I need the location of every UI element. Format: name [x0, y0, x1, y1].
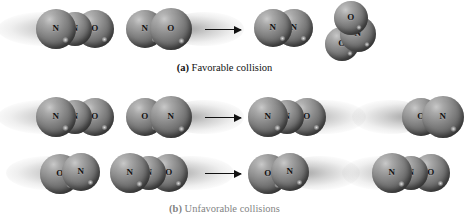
molecule-no2-product-row-a: O N O [318, 1, 382, 63]
caption-unfavorable: (b) Unfavorable collisions [0, 203, 449, 214]
atom-nitrogen: N [271, 153, 309, 191]
reaction-arrow [205, 173, 241, 174]
atom-nitrogen: N [150, 96, 192, 138]
atom-nitrogen: N [110, 153, 150, 193]
caption-favorable: (a) Favorable collision [0, 62, 449, 73]
caption-tag: (a) [177, 62, 189, 73]
molecule-on-reactant-row-b2: O N [10, 152, 114, 194]
molecule-n2o-product-row-b1: N N O [248, 96, 358, 138]
reaction-arrow [205, 29, 241, 30]
atom-label: N [110, 168, 150, 177]
atom-label: N [36, 24, 76, 33]
atom-oxygen: O [334, 1, 368, 35]
atom-label: O [150, 24, 192, 33]
caption-tag: (b) [169, 203, 182, 214]
atom-oxygen: O [150, 8, 192, 50]
atom-label: N [422, 112, 464, 121]
atom-nitrogen: N [62, 153, 100, 191]
arrow-head-icon [234, 170, 242, 178]
atom-nitrogen: N [422, 96, 464, 138]
molecule-on-product-row-b1: O N [356, 96, 448, 138]
atom-label: N [254, 23, 292, 32]
atom-label: N [372, 168, 412, 177]
molecule-n2-product-row-a: N N [254, 9, 316, 49]
reaction-arrow [205, 117, 241, 118]
arrow-head-icon [234, 114, 242, 122]
molecule-n2o-reactant-row-a: N N O [4, 8, 114, 50]
atom-label: N [36, 112, 76, 121]
atom-nitrogen: N [36, 9, 76, 49]
atom-nitrogen: N [36, 97, 76, 137]
molecule-on-product-row-b2: O N [248, 152, 352, 194]
atom-nitrogen: N [254, 9, 292, 47]
caption-text: Unfavorable collisions [185, 203, 280, 214]
atom-label: O [334, 13, 368, 22]
atom-nitrogen: N [248, 97, 288, 137]
caption-text: Favorable collision [192, 62, 273, 73]
atom-label: N [248, 112, 288, 121]
molecule-n2o-product-row-b2: N N O [348, 152, 449, 194]
atom-label: N [150, 112, 192, 121]
arrow-head-icon [234, 26, 242, 34]
molecule-n2o-reactant-row-b1: N N O [4, 96, 114, 138]
atom-label: N [62, 167, 100, 176]
atom-nitrogen: N [372, 153, 412, 193]
atom-label: N [271, 167, 309, 176]
